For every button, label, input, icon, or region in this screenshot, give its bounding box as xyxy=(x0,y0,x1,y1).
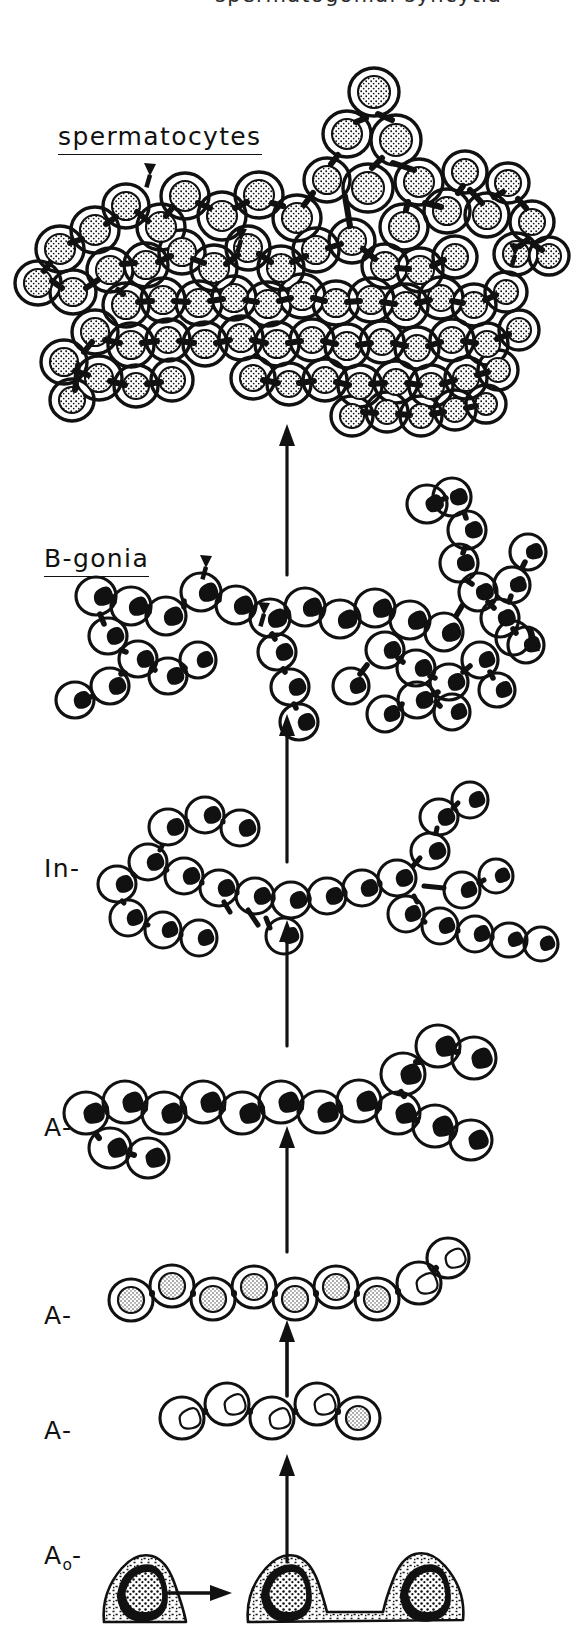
stage-label-spermatocytes: spermatocytes xyxy=(58,124,262,155)
differentiation-arrows xyxy=(168,424,295,1601)
arrow-a0-to-a3 xyxy=(279,1454,295,1562)
a-spermatogonia-4 xyxy=(160,1383,380,1439)
arrow-a0-self-renewal xyxy=(168,1585,232,1601)
arrow-in-to-bgonia xyxy=(279,714,295,862)
a-zero-stem-cells xyxy=(104,1553,464,1622)
stage-label-b-gonia: B-gonia xyxy=(44,546,149,577)
cropped-caption-text: spermatogonial syncytia xyxy=(215,0,502,7)
a-zero-letter: A xyxy=(44,1541,62,1570)
a-zero-dash: - xyxy=(72,1541,82,1570)
stage-label-a-type-1: A- xyxy=(44,1115,72,1140)
a-spermatogonia-8 xyxy=(109,1238,469,1321)
stage-label-a-type-2: A- xyxy=(44,1303,72,1328)
arrow-a3-to-a2 xyxy=(279,1320,295,1396)
a-spermatogonia-16 xyxy=(64,1025,496,1178)
cropped-caption-top: spermatogonial syncytia xyxy=(0,0,587,14)
a-zero-subscript: o xyxy=(62,1556,71,1574)
stage-label-a-zero: Ao- xyxy=(44,1543,82,1574)
intermediate-chain xyxy=(98,782,558,961)
arrow-a2-to-a1 xyxy=(279,1126,295,1252)
arrow-a1-to-in xyxy=(279,920,295,1046)
stage-label-a-type-3: A- xyxy=(44,1418,72,1443)
arrow-bgonia-to-spermatocytes xyxy=(279,424,295,575)
cell-lineage-artwork xyxy=(0,0,587,1644)
stage-label-intermediate: In- xyxy=(44,856,80,881)
b-gonia-chain xyxy=(56,478,546,740)
spermatogenesis-lineage-figure: spermatogonial syncytia spermatocytes B-… xyxy=(0,0,587,1644)
